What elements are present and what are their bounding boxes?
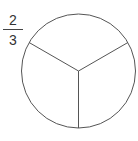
circle-divided-in-thirds bbox=[0, 0, 138, 141]
